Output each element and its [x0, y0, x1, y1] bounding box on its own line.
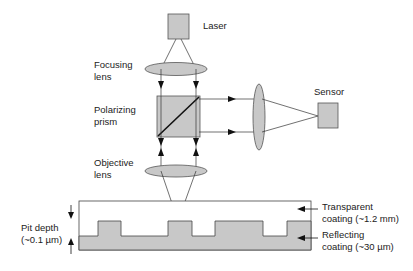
focusing-lens-label-line1: Focusing	[94, 59, 133, 70]
objective-lens-label-line2: lens	[94, 169, 111, 180]
focusing-lens	[145, 63, 207, 76]
polarizing-prism-label-line1: Polarizing	[94, 104, 136, 115]
laser-box	[168, 14, 189, 39]
objective-lens-label-line1: Objective	[94, 157, 134, 168]
pit-depth-label-line2: (~0.1 µm)	[21, 234, 62, 245]
pit-depth-label-line1: Pit depth	[21, 222, 59, 233]
objective-lens	[145, 165, 207, 177]
arrow-up-icon	[158, 138, 164, 146]
reflecting-coating-label-line1: Reflecting	[322, 229, 364, 240]
arrow-up-icon	[193, 138, 199, 146]
sensor-box	[318, 103, 338, 128]
sensor-lens	[253, 84, 265, 150]
pit-depth-indicator	[68, 205, 74, 254]
polarizing-prism-label-line2: prism	[94, 116, 117, 127]
transparent-coating-label-line2: coating (~1.2 mm)	[322, 213, 399, 224]
arrow-down-icon	[193, 148, 199, 156]
laser-label: Laser	[203, 20, 227, 31]
arrow-down-icon	[158, 148, 164, 156]
focusing-lens-label-line2: lens	[94, 71, 111, 82]
reflecting-coating-label-line2: coating (~30 µm)	[322, 241, 394, 252]
transparent-coating-label-line1: Transparent	[322, 201, 373, 212]
reflected-beam	[199, 99, 259, 132]
sensor-label: Sensor	[314, 86, 344, 97]
